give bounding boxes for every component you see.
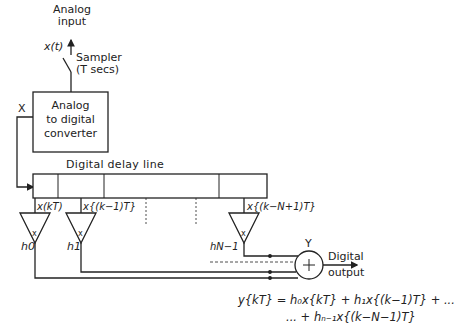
delay-line-box xyxy=(33,174,267,198)
analog-input-label: Analog input xyxy=(50,4,94,28)
node-y-label: Y xyxy=(305,238,312,250)
tap-signal-1: x{(k−1)T} xyxy=(83,201,136,213)
sampler-switch xyxy=(63,58,71,72)
node-x-label: X xyxy=(18,103,26,115)
coef-h1: h1 xyxy=(67,241,81,253)
equation-line-2: ... + hₙ₋₁x{(k−N−1)T} xyxy=(286,310,416,324)
input-signal-label: x(t) xyxy=(44,41,63,53)
adc-output-wire xyxy=(17,117,33,187)
h1-output-wire xyxy=(81,243,296,272)
mult-symbol-0: x xyxy=(32,228,37,240)
sampler-label: Sampler (T secs) xyxy=(76,52,122,76)
delay-line-title: Digital delay line xyxy=(66,159,164,171)
tap-signal-0: x(kT) xyxy=(37,201,63,213)
adc-label: Analog to digital converter xyxy=(33,99,108,141)
hN-1-output-wire xyxy=(244,243,298,256)
mult-symbol-n-1: x xyxy=(241,228,246,240)
digital-output-label: Digital output xyxy=(328,251,364,279)
equation-line-1: y{kT} = h₀x{kT} + h₁x{(k−1)T} + ... xyxy=(238,293,455,307)
mult-symbol-1: x xyxy=(78,228,83,240)
tap-signal-n-1: x{(k−N+1)T} xyxy=(247,201,316,213)
coef-h0: h0 xyxy=(21,241,35,253)
coef-hN-1: hN−1 xyxy=(210,241,239,253)
